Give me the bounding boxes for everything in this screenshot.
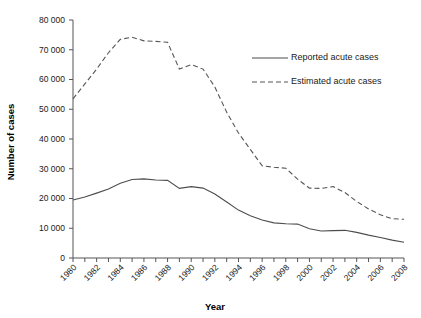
y-axis-tick-marks [69, 20, 73, 258]
y-axis-tick-label: 60 000 [39, 74, 65, 84]
x-axis-tick-label: 1980 [58, 262, 79, 283]
x-axis-tick-label: 1982 [82, 262, 103, 283]
x-axis-tick-label: 1998 [271, 262, 292, 283]
x-axis-group: 1980198219841986198819901992199419961998… [58, 258, 410, 283]
y-axis-group: 010 00020 00030 00040 00050 00060 00070 … [39, 15, 73, 263]
y-axis-tick-labels: 010 00020 00030 00040 00050 00060 00070 … [39, 15, 65, 263]
chart-container: 010 00020 00030 00040 00050 00060 00070 … [0, 0, 421, 318]
x-axis-tick-label: 2002 [318, 262, 339, 283]
x-axis-tick-label: 2006 [365, 262, 386, 283]
x-axis-tick-label: 1984 [105, 262, 126, 283]
x-axis-title: Year [205, 301, 225, 312]
line-chart: 010 00020 00030 00040 00050 00060 00070 … [0, 0, 421, 318]
y-axis-tick-label: 30 000 [39, 164, 65, 174]
x-axis-tick-label: 1994 [223, 262, 244, 283]
x-axis-tick-label: 1986 [129, 262, 150, 283]
y-axis-tick-label: 70 000 [39, 45, 65, 55]
y-axis-tick-label: 10 000 [39, 223, 65, 233]
x-axis-tick-label: 2004 [342, 262, 363, 283]
x-axis-tick-label: 1996 [247, 262, 268, 283]
x-axis-tick-label: 1990 [176, 262, 197, 283]
y-axis-tick-label: 50 000 [39, 104, 65, 114]
x-axis-tick-labels: 1980198219841986198819901992199419961998… [58, 262, 410, 283]
x-axis-tick-label: 1988 [153, 262, 174, 283]
legend: Reported acute cases Estimated acute cas… [252, 52, 382, 86]
legend-label-estimated-acute-cases: Estimated acute cases [291, 76, 382, 86]
x-axis-tick-label: 2000 [294, 262, 315, 283]
y-axis-tick-label: 20 000 [39, 193, 65, 203]
legend-label-reported-acute-cases: Reported acute cases [291, 52, 379, 62]
x-axis-tick-label: 1992 [200, 262, 221, 283]
x-axis-tick-label: 2008 [389, 262, 410, 283]
y-axis-title: Number of cases [5, 104, 16, 181]
x-axis-tick-marks [73, 258, 404, 262]
series-line-estimated-acute-cases [73, 37, 404, 219]
series-line-reported-acute-cases [73, 179, 404, 242]
y-axis-tick-label: 0 [60, 253, 65, 263]
series-group [73, 37, 404, 242]
y-axis-tick-label: 80 000 [39, 15, 65, 25]
y-axis-tick-label: 40 000 [39, 134, 65, 144]
